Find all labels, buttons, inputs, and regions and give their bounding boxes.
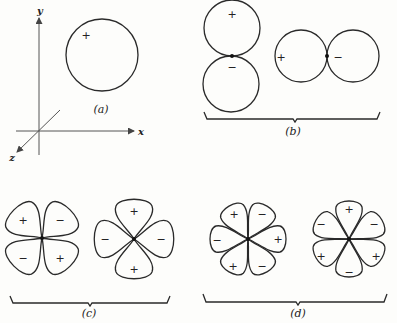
sign-plus: + [81, 29, 90, 42]
sign-minus: − [55, 214, 64, 227]
orbital-lobes-figure: y x z + (a) + − + − (b) [0, 0, 397, 323]
sign-minus: − [212, 234, 221, 247]
panel-d: + − − + + − + − − + + − (d) [203, 199, 389, 319]
sign-plus: + [55, 252, 64, 265]
sign-minus: − [316, 218, 325, 231]
panel-b: + − + − (b) [203, 0, 380, 138]
sign-plus: + [129, 263, 138, 276]
panel-label-c: (c) [82, 307, 97, 320]
sign-minus: − [257, 208, 266, 221]
node-dot [230, 54, 234, 58]
sign-plus: + [18, 214, 27, 227]
brace-c [10, 296, 170, 306]
sign-minus: − [369, 218, 378, 231]
sign-minus: − [333, 51, 342, 64]
sign-plus: + [276, 51, 285, 64]
sign-plus: + [371, 250, 380, 263]
sign-plus: + [273, 233, 282, 246]
d-orbital-diagonal: + − − + [1, 197, 84, 280]
d-orbital-axial: + − − + [94, 199, 174, 279]
sign-plus: + [229, 208, 238, 221]
sign-plus: + [227, 8, 236, 21]
z-axis-label: z [8, 152, 15, 163]
y-axis-label: y [36, 5, 44, 16]
sign-minus: − [227, 61, 236, 74]
sign-minus: − [100, 233, 109, 246]
sign-minus: − [344, 266, 353, 279]
f-orbital-left: + − − + + − [210, 199, 286, 278]
panel-label-a: (a) [93, 103, 108, 116]
sign-minus: − [18, 252, 27, 265]
node-dot [132, 237, 136, 241]
f-orbital-right: + − − + + − [309, 201, 388, 279]
sign-plus: + [344, 203, 353, 216]
sign-plus: + [228, 260, 237, 273]
panel-a: y x z + (a) [8, 5, 145, 163]
panel-label-b: (b) [285, 125, 301, 138]
brace-d [203, 294, 387, 305]
node-dot [246, 237, 250, 241]
sign-minus: − [257, 260, 266, 273]
node-dot [40, 236, 44, 240]
node-dot [347, 237, 351, 241]
s-orbital-circle [66, 19, 138, 91]
sign-plus: + [129, 205, 138, 218]
node-dot [325, 54, 329, 58]
horizontal-p-pair: + − [275, 30, 379, 82]
brace-b [204, 112, 380, 122]
panel-label-d: (d) [290, 307, 306, 320]
vertical-p-pair: + − [203, 0, 260, 112]
sign-plus: + [316, 250, 325, 263]
panel-c: + − − + + − − + (c) [1, 197, 174, 320]
x-axis-label: x [137, 126, 145, 137]
sign-minus: − [156, 233, 165, 246]
